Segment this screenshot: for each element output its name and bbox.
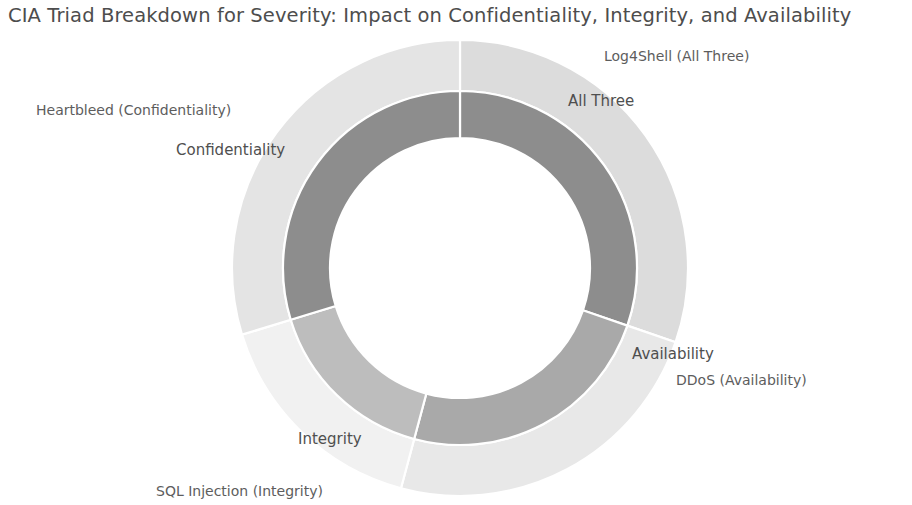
slice-label: Log4Shell (All Three) bbox=[604, 48, 749, 64]
inner-ring bbox=[283, 91, 637, 445]
slice-label: SQL Injection (Integrity) bbox=[156, 483, 323, 499]
slice-label: Integrity bbox=[298, 430, 362, 448]
slice-label: Availability bbox=[632, 345, 714, 363]
donut-svg-canvas bbox=[0, 0, 912, 505]
slice-label: DDoS (Availability) bbox=[676, 372, 807, 388]
slice-label: All Three bbox=[568, 92, 634, 110]
slice-label: Heartbleed (Confidentiality) bbox=[36, 102, 231, 118]
donut-chart: CIA Triad Breakdown for Severity: Impact… bbox=[0, 0, 912, 505]
slice-label: Confidentiality bbox=[176, 141, 285, 159]
